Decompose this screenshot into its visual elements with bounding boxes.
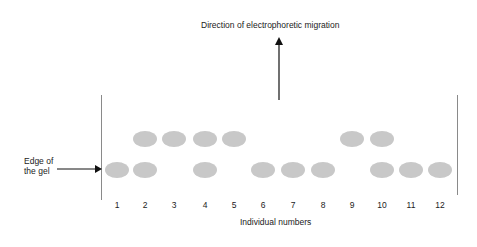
gel-right-edge [457, 95, 458, 195]
gel-left-edge [101, 95, 102, 200]
migration-direction-label: Direction of electrophoretic migration [201, 20, 339, 30]
lane-number: 2 [135, 200, 155, 210]
lane-number: 1 [107, 200, 127, 210]
lane-number: 10 [372, 200, 392, 210]
lane-number: 11 [401, 200, 421, 210]
lane-number: 5 [224, 200, 244, 210]
lane-number: 12 [430, 200, 450, 210]
x-axis-label: Individual numbers [240, 217, 311, 227]
band-lower [193, 162, 217, 178]
band-lower [281, 162, 305, 178]
lane-number: 9 [342, 200, 362, 210]
band-lower [251, 162, 275, 178]
band-lower [133, 162, 157, 178]
band-upper [193, 131, 217, 147]
band-upper [340, 131, 364, 147]
band-upper [162, 131, 186, 147]
lane-number: 6 [253, 200, 273, 210]
band-lower [370, 162, 394, 178]
band-upper [133, 131, 157, 147]
band-upper [370, 131, 394, 147]
migration-arrow-icon [272, 36, 286, 100]
edge-arrow-icon [57, 164, 103, 174]
band-lower [399, 162, 423, 178]
edge-of-gel-label: Edge of the gel [24, 156, 53, 176]
lane-number: 3 [164, 200, 184, 210]
lane-number: 7 [283, 200, 303, 210]
lane-number: 4 [195, 200, 215, 210]
band-lower [311, 162, 335, 178]
lane-number: 8 [313, 200, 333, 210]
band-lower [428, 162, 452, 178]
band-lower [105, 162, 129, 178]
band-upper [222, 131, 246, 147]
